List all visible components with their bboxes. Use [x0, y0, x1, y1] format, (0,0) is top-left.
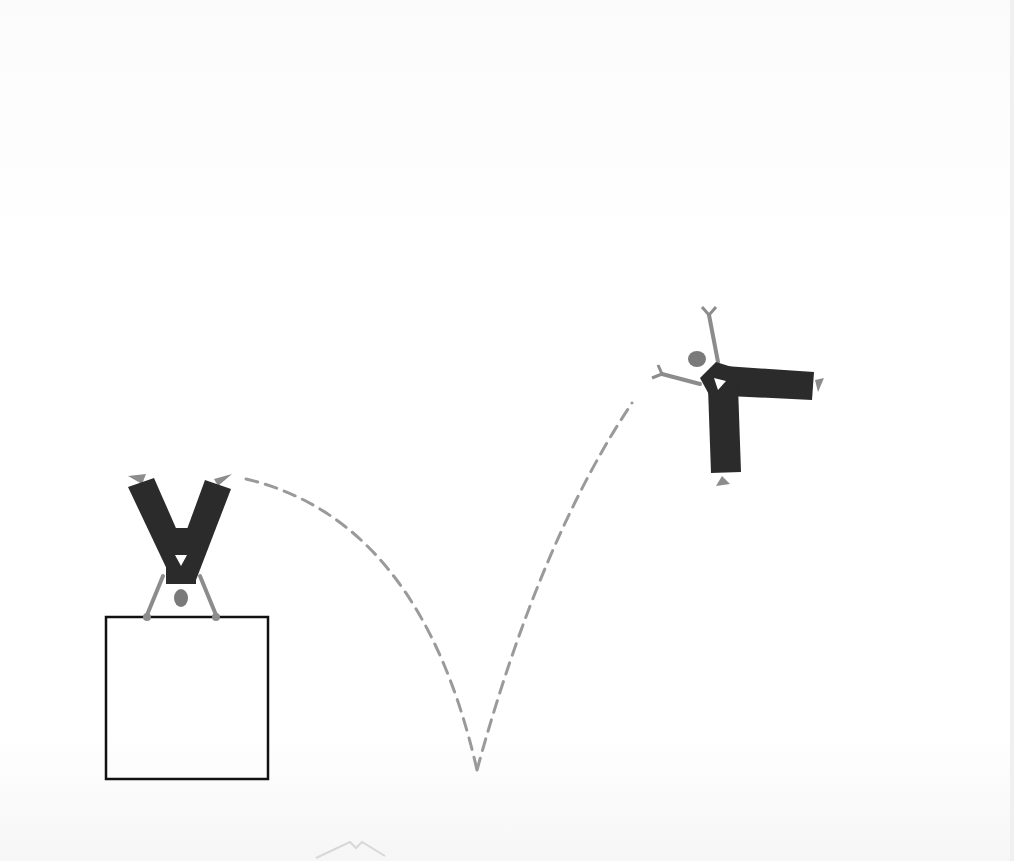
foot-icon	[815, 378, 824, 392]
head-icon	[688, 351, 706, 367]
head-icon	[174, 589, 188, 607]
airborne-figure	[652, 307, 824, 486]
foot-icon	[716, 476, 730, 486]
box	[106, 617, 268, 779]
illustration-canvas	[0, 0, 1014, 861]
illustration-svg	[0, 0, 1014, 861]
trajectory-dashed-path	[246, 403, 632, 770]
handstand-figure	[128, 474, 232, 621]
page-mark	[316, 842, 385, 858]
